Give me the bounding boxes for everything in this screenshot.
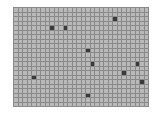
grid-cell[interactable]	[127, 22, 131, 26]
grid-cell[interactable]	[41, 8, 45, 12]
grid-cell[interactable]	[109, 85, 113, 89]
grid-cell[interactable]	[73, 98, 77, 102]
grid-cell[interactable]	[131, 94, 135, 98]
grid-cell[interactable]	[55, 31, 59, 35]
grid-cell[interactable]	[50, 8, 54, 12]
grid-cell[interactable]	[100, 53, 104, 57]
grid-cell[interactable]	[68, 35, 72, 39]
grid-cell[interactable]	[19, 89, 23, 93]
grid-cell[interactable]	[136, 94, 140, 98]
grid-cell[interactable]	[23, 40, 27, 44]
grid-cell[interactable]	[32, 40, 36, 44]
grid-cell[interactable]	[86, 53, 90, 57]
grid-cell[interactable]	[64, 22, 68, 26]
grid-cell[interactable]	[50, 103, 54, 107]
grid-cell[interactable]	[37, 76, 41, 80]
grid-cell[interactable]	[68, 98, 72, 102]
grid-cell[interactable]	[46, 44, 50, 48]
grid-cell[interactable]	[136, 22, 140, 26]
grid-cell[interactable]	[37, 67, 41, 71]
grid-cell[interactable]	[14, 35, 18, 39]
grid-cell[interactable]	[37, 53, 41, 57]
grid-cell[interactable]	[136, 17, 140, 21]
grid-cell[interactable]	[100, 22, 104, 26]
grid-cell[interactable]	[95, 71, 99, 75]
grid-cell[interactable]	[28, 44, 32, 48]
grid-cell[interactable]	[113, 76, 117, 80]
grid-cell[interactable]	[64, 58, 68, 62]
grid-cell[interactable]	[68, 40, 72, 44]
grid-cell[interactable]	[28, 40, 32, 44]
grid-cell[interactable]	[55, 62, 59, 66]
grid-cell[interactable]	[131, 13, 135, 17]
grid-cell[interactable]	[77, 22, 81, 26]
grid-cell[interactable]	[145, 22, 149, 26]
grid-cell[interactable]	[73, 85, 77, 89]
grid-cell[interactable]	[28, 31, 32, 35]
filled-cell[interactable]	[86, 49, 90, 53]
grid-cell[interactable]	[118, 31, 122, 35]
grid-cell[interactable]	[64, 71, 68, 75]
grid-cell[interactable]	[122, 26, 126, 30]
grid-cell[interactable]	[118, 13, 122, 17]
grid-cell[interactable]	[91, 103, 95, 107]
grid-cell[interactable]	[37, 85, 41, 89]
grid-cell[interactable]	[104, 103, 108, 107]
grid-cell[interactable]	[100, 98, 104, 102]
grid-cell[interactable]	[131, 22, 135, 26]
grid-cell[interactable]	[109, 8, 113, 12]
grid-cell[interactable]	[32, 13, 36, 17]
grid-cell[interactable]	[55, 98, 59, 102]
grid-cell[interactable]	[77, 53, 81, 57]
grid-cell[interactable]	[37, 98, 41, 102]
grid-cell[interactable]	[145, 31, 149, 35]
grid-cell[interactable]	[32, 44, 36, 48]
grid-cell[interactable]	[127, 26, 131, 30]
grid-cell[interactable]	[95, 76, 99, 80]
grid-cell[interactable]	[145, 71, 149, 75]
grid-cell[interactable]	[118, 103, 122, 107]
grid-cell[interactable]	[86, 71, 90, 75]
grid-cell[interactable]	[68, 62, 72, 66]
grid-cell[interactable]	[82, 62, 86, 66]
grid-cell[interactable]	[113, 58, 117, 62]
grid-cell[interactable]	[91, 22, 95, 26]
grid-cell[interactable]	[86, 40, 90, 44]
grid-cell[interactable]	[41, 94, 45, 98]
grid-cell[interactable]	[28, 58, 32, 62]
grid-cell[interactable]	[131, 44, 135, 48]
grid-cell[interactable]	[41, 53, 45, 57]
grid-cell[interactable]	[109, 89, 113, 93]
grid-cell[interactable]	[32, 31, 36, 35]
grid-cell[interactable]	[122, 31, 126, 35]
grid-cell[interactable]	[118, 67, 122, 71]
grid-cell[interactable]	[131, 103, 135, 107]
grid-cell[interactable]	[59, 17, 63, 21]
grid-cell[interactable]	[59, 98, 63, 102]
grid-cell[interactable]	[28, 71, 32, 75]
grid-cell[interactable]	[28, 13, 32, 17]
grid-cell[interactable]	[91, 40, 95, 44]
grid-cell[interactable]	[46, 17, 50, 21]
grid-cell[interactable]	[95, 53, 99, 57]
grid-cell[interactable]	[32, 49, 36, 53]
grid-cell[interactable]	[100, 40, 104, 44]
grid-cell[interactable]	[100, 58, 104, 62]
grid-cell[interactable]	[32, 71, 36, 75]
grid-cell[interactable]	[73, 13, 77, 17]
filled-cell[interactable]	[86, 94, 90, 98]
grid-cell[interactable]	[14, 103, 18, 107]
grid-cell[interactable]	[113, 71, 117, 75]
grid-cell[interactable]	[145, 80, 149, 84]
grid-cell[interactable]	[100, 89, 104, 93]
grid-cell[interactable]	[23, 31, 27, 35]
grid-cell[interactable]	[64, 35, 68, 39]
grid-cell[interactable]	[64, 85, 68, 89]
grid-cell[interactable]	[28, 85, 32, 89]
grid-cell[interactable]	[73, 71, 77, 75]
grid-cell[interactable]	[77, 35, 81, 39]
grid-cell[interactable]	[50, 40, 54, 44]
grid-cell[interactable]	[127, 94, 131, 98]
grid-cell[interactable]	[127, 8, 131, 12]
grid-cell[interactable]	[136, 89, 140, 93]
